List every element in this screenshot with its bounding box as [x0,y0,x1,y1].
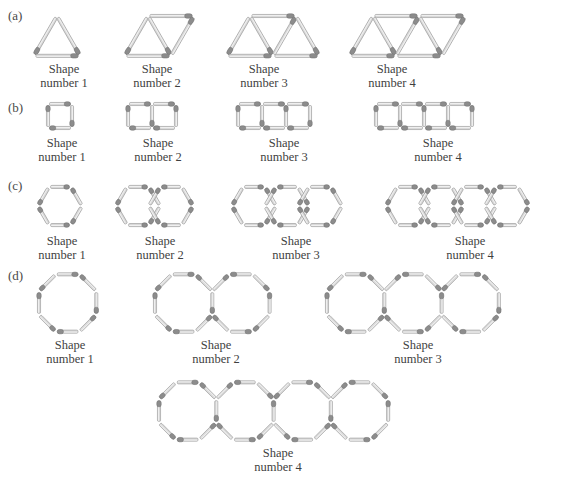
matchstick [395,17,420,56]
caption-line2: number 4 [406,150,470,164]
matchstick-head [258,185,264,189]
matchstick-head [162,185,168,189]
caption-c-4: Shape number 4 [438,234,502,262]
matchstick [330,382,348,400]
matchstick [517,187,530,205]
matchstick [159,422,177,440]
caption-d-3: Shape number 3 [386,338,450,366]
matchstick [46,106,50,127]
row-label-d: (d) [8,268,23,284]
row-label-a: (a) [8,8,22,24]
caption-line2: number 1 [32,76,96,90]
caption-line1: Shape [126,136,190,150]
matchstick-head [173,329,179,333]
square-diagram-4 [372,100,504,132]
matchstick [50,102,71,106]
matchstick-head [284,106,288,112]
matchstick [372,17,397,56]
matchstick [154,102,175,106]
matchstick [385,187,398,205]
caption-line2: number 4 [246,460,310,474]
matchstick [426,126,447,130]
matchstick [127,54,169,58]
matchstick [402,102,423,106]
matchstick [129,223,148,227]
figure-a-shape-4 [345,2,505,58]
matchstick [375,14,417,18]
matchstick [150,14,192,18]
matchstick [403,329,424,333]
matchstick [275,54,317,58]
matchstick [50,126,71,130]
matchstick-head [360,272,366,276]
figure-c-shape-3 [228,178,364,234]
matchstick [327,274,345,292]
matchstick-head [497,307,501,313]
matchstick-head [264,126,270,130]
matchstick-head [240,126,246,130]
matchstick-head [267,293,271,299]
caption-c-3: Shape number 3 [264,234,328,262]
matchstick [441,274,459,292]
matchstick [214,401,218,422]
matchstick [36,54,78,58]
matchstick [252,274,270,292]
matchstick [418,17,443,56]
matchstick [216,422,234,440]
matchstick [329,401,333,422]
matchstick [162,223,181,227]
matchstick-head [422,106,426,112]
caption-line1: Shape [32,62,96,76]
matchstick [115,206,128,224]
matchstick [278,185,297,189]
matchstick [311,223,330,227]
matchstick-head [71,54,79,58]
caption-line1: Shape [30,234,94,248]
triangle-diagram-3 [222,2,352,58]
matchstick [446,106,450,127]
matchstick [57,272,78,276]
caption-line2: number 4 [438,248,502,262]
matchstick-head [324,185,330,189]
matchstick [465,185,484,189]
caption-b-2: Shape number 2 [126,136,190,164]
matchstick [314,382,332,400]
matchstick [150,106,154,127]
matchstick [37,187,50,205]
matchstick-head [231,272,237,276]
figure-d-shape-3 [324,270,510,338]
caption-line1: Shape [184,338,248,352]
caption-line1: Shape [125,62,189,76]
matchstick [273,422,291,440]
matchstick [482,314,500,332]
caption-d-4: Shape number 4 [246,446,310,474]
matchstick-head [249,437,255,441]
matchstick [51,223,70,227]
figure-page: from matchsticks: (a) Shape number 1 Sha… [0,0,568,483]
hexagon-diagram-2 [112,178,208,234]
matchstick-head [278,102,284,106]
matchstick [216,382,234,400]
figure-c-shape-1 [34,178,90,234]
matchstick [352,54,394,58]
caption-line1: Shape [38,338,102,352]
matchstick-head [464,102,470,106]
matchstick-head [432,185,438,189]
matchstick-head [292,437,298,441]
octagon-diagram-4 [156,378,400,446]
matchstick [155,314,173,332]
matchstick-head [446,120,450,126]
matchstick [39,274,57,292]
matchstick [497,293,501,314]
matchstick-head [142,185,148,189]
matchstick-head [46,106,50,112]
matchstick [231,187,244,205]
matchstick-head [153,293,157,299]
matchstick-head [478,223,484,227]
matchstick [245,223,264,227]
square-diagram-1 [44,100,80,132]
matchstick [177,380,198,384]
octagon-diagram-1 [36,270,106,338]
matchstick [382,293,386,314]
matchstick-head [349,380,355,384]
